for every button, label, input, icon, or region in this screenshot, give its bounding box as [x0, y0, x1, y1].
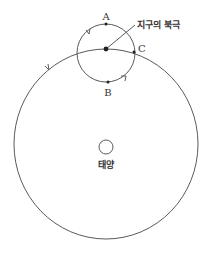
label-north-pole: 지구의 북극 — [137, 19, 181, 30]
label-a: A — [101, 11, 110, 22]
sun-circle — [99, 140, 113, 154]
label-b: B — [104, 87, 111, 98]
point-a-marker — [105, 23, 108, 26]
label-sun: 태양 — [98, 159, 115, 170]
orbit-circle — [14, 49, 198, 239]
earth-orbit-diagram: A B C 지구의 북극 태양 — [0, 0, 211, 254]
north-pole-point — [104, 47, 109, 52]
rotation-arrow-lower-icon — [121, 76, 126, 81]
label-c: C — [138, 43, 146, 54]
orbit-arrow-icon — [45, 64, 49, 70]
point-b-marker — [107, 81, 110, 84]
point-c-marker — [133, 51, 136, 54]
